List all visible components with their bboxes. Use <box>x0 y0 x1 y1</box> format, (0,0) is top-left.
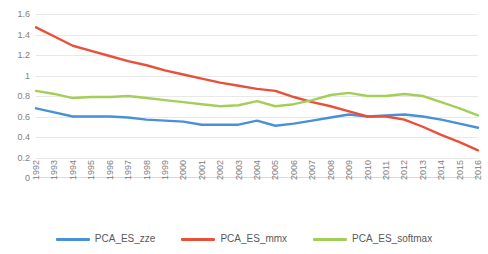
y-tick-label: 1 <box>25 71 30 80</box>
x-tick-label: 2000 <box>179 160 188 180</box>
legend-label: PCA_ES_zze <box>95 234 156 244</box>
x-tick-label: 2003 <box>234 160 243 180</box>
legend-color-swatch <box>313 238 347 241</box>
legend-item[interactable]: PCA_ES_softmax <box>313 234 432 244</box>
series-line <box>36 27 478 150</box>
legend-item[interactable]: PCA_ES_mmx <box>181 234 287 244</box>
x-tick-label: 1997 <box>124 160 133 180</box>
series-layer <box>36 14 478 178</box>
legend-label: PCA_ES_softmax <box>352 234 432 244</box>
x-tick-label: 2013 <box>418 160 427 180</box>
y-tick-label: 1.2 <box>17 51 30 60</box>
x-tick-label: 2012 <box>400 160 409 180</box>
series-line <box>36 91 478 116</box>
x-tick-label: 2008 <box>326 160 335 180</box>
x-tick-label: 2004 <box>253 160 262 180</box>
x-tick-label: 2002 <box>216 160 225 180</box>
x-axis: 1992199319941995199619971998199920002001… <box>36 180 478 226</box>
y-tick-label: 0.6 <box>17 112 30 121</box>
line-chart: 1.61.41.210.80.60.40.20 1992199319941995… <box>0 0 488 254</box>
x-tick-label: 2014 <box>437 160 446 180</box>
x-tick-label: 2006 <box>289 160 298 180</box>
y-tick-label: 0.8 <box>17 92 30 101</box>
x-tick-label: 1993 <box>50 160 59 180</box>
legend-label: PCA_ES_mmx <box>220 234 287 244</box>
x-tick-label: 2011 <box>381 161 390 180</box>
y-tick-label: 1.6 <box>17 10 30 19</box>
x-tick-label: 1999 <box>160 160 169 180</box>
plot-area <box>36 14 478 178</box>
y-tick-label: 0.4 <box>17 133 30 142</box>
x-tick-label: 2016 <box>474 160 483 180</box>
legend-color-swatch <box>56 238 90 241</box>
x-tick-label: 2010 <box>363 160 372 180</box>
x-tick-label: 2007 <box>308 160 317 180</box>
x-tick-label: 1992 <box>32 160 41 180</box>
y-axis: 1.61.41.210.80.60.40.20 <box>0 0 34 192</box>
x-tick-label: 1994 <box>68 160 77 180</box>
y-tick-label: 0 <box>25 174 30 183</box>
legend-color-swatch <box>181 238 215 241</box>
x-tick-label: 2009 <box>345 160 354 180</box>
legend-item[interactable]: PCA_ES_zze <box>56 234 156 244</box>
series-line <box>36 108 478 127</box>
x-tick-label: 1996 <box>105 160 114 180</box>
x-tick-label: 2005 <box>271 160 280 180</box>
x-tick-label: 1998 <box>142 160 151 180</box>
x-tick-label: 2001 <box>197 160 206 180</box>
x-tick-label: 2015 <box>455 160 464 180</box>
x-tick-label: 1995 <box>87 160 96 180</box>
chart-legend: PCA_ES_zzePCA_ES_mmxPCA_ES_softmax <box>0 230 488 248</box>
y-tick-label: 1.4 <box>17 30 30 39</box>
y-tick-label: 0.2 <box>17 153 30 162</box>
